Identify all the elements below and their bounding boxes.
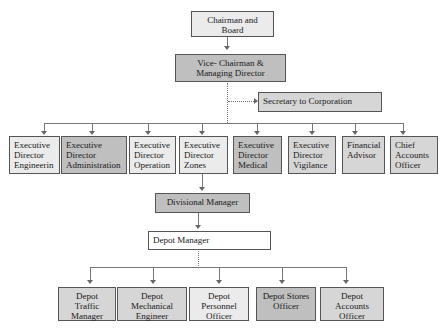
arrow-down-icon	[145, 131, 151, 135]
arrow-down-icon	[279, 280, 285, 284]
arrow-down-icon	[224, 46, 230, 50]
arrow-down-icon	[89, 131, 95, 135]
exec-zones-box: Executive Director Zones	[179, 136, 228, 174]
depot-staff-label: Depot Personnel Officer	[201, 291, 237, 321]
depot-manager-box: Depot Manager	[148, 231, 271, 250]
arrow-down-icon	[150, 280, 156, 284]
depot-accounts-officer-box: Depot Accounts Officer	[320, 287, 384, 321]
arrow-down-icon	[400, 131, 406, 135]
vice-chairman-box: Vice- Chairman & Managing Director	[175, 54, 286, 82]
chief-accounts-officer-box: Chief Accounts Officer	[390, 136, 438, 174]
depot-personnel-officer-box: Depot Personnel Officer	[189, 287, 249, 321]
depot-staff-label: Depot Accounts Officer	[335, 291, 369, 321]
exec-label: Executive Director Operation	[134, 140, 170, 170]
arrow-down-icon	[309, 131, 315, 135]
depot-stores-officer-box: Depot Stores Officer	[256, 287, 316, 321]
depot-staff-label: Depot Stores Officer	[263, 291, 310, 311]
arrow-down-icon	[352, 131, 358, 135]
exec-vigilance-box: Executive Director Vigilance	[288, 136, 336, 174]
depot-traffic-manager-box: Depot Traffic Manager	[58, 287, 116, 321]
exec-medical-box: Executive Director Medical	[233, 136, 282, 174]
exec-administration-box: Executive Director Administration	[61, 136, 127, 174]
exec-label: Financial Advisor	[347, 140, 381, 160]
exec-engineering-box: Executive Director Engineerin	[9, 136, 60, 174]
exec-label: Chief Accounts Officer	[395, 140, 429, 170]
chairman-label: Chairman and Board	[207, 15, 258, 35]
depot-staff-label: Depot Mechanical Engineer	[131, 291, 173, 321]
secretary-label: Secretary to Corporation	[263, 96, 352, 106]
divisional-manager-box: Divisional Manager	[155, 193, 250, 213]
financial-advisor-box: Financial Advisor	[342, 136, 385, 174]
exec-label: Executive Director Vigilance	[293, 140, 329, 170]
depot-mechanical-engineer-box: Depot Mechanical Engineer	[117, 287, 187, 321]
arrow-down-icon	[216, 280, 222, 284]
arrow-down-icon	[254, 131, 260, 135]
arrow-down-icon	[199, 131, 205, 135]
exec-label: Executive Director Zones	[184, 140, 220, 170]
divisional-manager-label: Divisional Manager	[167, 197, 239, 207]
arrow-down-icon	[195, 225, 201, 229]
vice-chairman-label: Vice- Chairman & Managing Director	[196, 58, 265, 78]
exec-operation-box: Executive Director Operation	[129, 136, 176, 174]
arrow-down-icon	[41, 131, 47, 135]
depot-manager-label: Depot Manager	[153, 235, 209, 245]
secretary-box: Secretary to Corporation	[258, 92, 382, 112]
exec-label: Executive Director Medical	[238, 140, 274, 170]
exec-label: Executive Director Administration	[66, 140, 121, 170]
exec-label: Executive Director Engineerin	[14, 140, 54, 170]
depot-staff-label: Depot Traffic Manager	[71, 291, 103, 321]
chairman-and-board-box: Chairman and Board	[191, 11, 274, 37]
arrow-down-icon	[87, 280, 93, 284]
arrow-down-icon	[343, 280, 349, 284]
arrow-down-icon	[199, 187, 205, 191]
